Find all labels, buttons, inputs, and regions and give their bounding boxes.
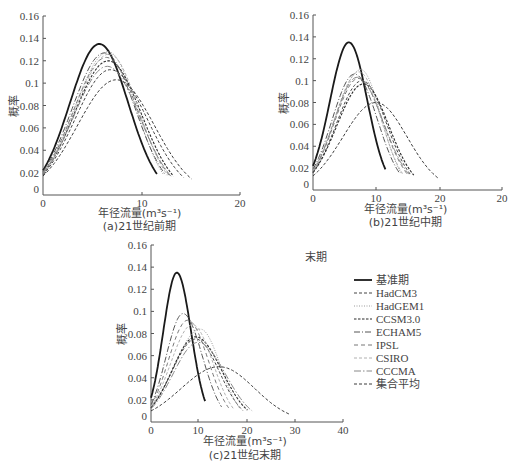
y-tick-label: 0.06 <box>290 118 310 130</box>
series-line-6 <box>313 72 403 174</box>
y-tick-label: 0.14 <box>20 32 40 44</box>
y-tick-label: 0.16 <box>20 10 40 22</box>
legend-label: CSIRO <box>376 352 408 364</box>
y-tick-label: 0.14 <box>128 261 148 273</box>
x-axis-title: 年径流量(m³s⁻¹) <box>98 206 182 220</box>
chart-a-early-century: 00.020.040.060.080.10.120.140.1601020概率年… <box>7 10 246 233</box>
y-tick-label: 0.1 <box>295 75 309 87</box>
x-tick-label: 20 <box>235 197 247 209</box>
chart-caption: (c)21世纪末期 <box>209 448 282 462</box>
y-tick-label: 0.02 <box>290 162 309 174</box>
x-tick-label: 0 <box>148 424 154 436</box>
y-tick-label: 0.06 <box>20 122 40 134</box>
y-tick-label: 0 <box>34 183 40 195</box>
legend-label: 集合平均 <box>376 377 420 391</box>
y-tick-label: 0.08 <box>290 97 310 109</box>
chart-b-mid-century: 00.020.040.060.080.10.120.140.160102020概… <box>277 9 508 229</box>
figure-canvas: 00.020.040.060.080.10.120.140.1601020概率年… <box>0 0 514 471</box>
series-line-2 <box>43 52 164 175</box>
y-tick-label: 0.08 <box>128 328 148 340</box>
y-axis-title: 概率 <box>7 95 21 117</box>
series-line-7 <box>151 342 252 410</box>
legend-title-fragment: 末期 <box>305 250 327 264</box>
legend-label: HadCM3 <box>376 287 417 299</box>
legend-label: IPSL <box>376 339 399 351</box>
y-tick-label: 0.06 <box>128 350 148 362</box>
y-tick-label: 0.12 <box>20 55 39 67</box>
y-tick-label: 0.14 <box>290 31 310 43</box>
y-tick-label: 0.04 <box>290 140 310 152</box>
y-tick-label: 0 <box>142 410 148 422</box>
legend-label: 基准期 <box>376 274 409 287</box>
legend: 基准期HadCM3HadGEM1CCSM3.0ECHAM5IPSLCSIROCC… <box>354 274 424 391</box>
y-tick-label: 0.04 <box>20 144 40 156</box>
legend-label: CCCMA <box>376 365 416 377</box>
y-axis-title: 概率 <box>115 323 129 345</box>
legend-label: CCSM3.0 <box>376 313 421 325</box>
x-axis-title: 年径流量(m³s⁻¹) <box>364 202 448 216</box>
x-tick-label: 30 <box>290 424 302 436</box>
x-tick-label: 40 <box>338 424 350 436</box>
series-line-3 <box>43 61 174 176</box>
y-tick-label: 0 <box>304 178 310 190</box>
x-axis-title: 年径流量(m³s⁻¹) <box>203 434 287 448</box>
legend-label: ECHAM5 <box>376 326 422 338</box>
y-tick-label: 0.16 <box>290 9 310 21</box>
series-line-5 <box>43 57 170 175</box>
y-tick-label: 0.08 <box>20 100 40 112</box>
y-tick-label: 0.02 <box>128 394 147 406</box>
x-tick-label: 20 <box>497 192 509 204</box>
x-tick-label: 0 <box>40 197 46 209</box>
y-tick-label: 0.02 <box>20 167 39 179</box>
y-tick-label: 0.12 <box>128 283 147 295</box>
chart-c-late-century: 00.020.040.060.080.10.120.140.1601020304… <box>115 239 349 462</box>
chart-caption: (a)21世纪前期 <box>103 219 176 233</box>
y-axis-title: 概率 <box>277 92 291 114</box>
legend-label: HadGEM1 <box>376 300 424 312</box>
series-line-1 <box>151 339 243 410</box>
x-tick-label: 0 <box>310 192 316 204</box>
y-tick-label: 0.04 <box>128 372 148 384</box>
chart-caption: (b)21世纪中期 <box>369 216 443 229</box>
y-tick-label: 0.1 <box>133 305 147 317</box>
y-tick-label: 0.12 <box>290 53 309 65</box>
y-tick-label: 0.1 <box>25 77 39 89</box>
series-line-8 <box>43 80 192 179</box>
y-tick-label: 0.16 <box>128 239 148 251</box>
